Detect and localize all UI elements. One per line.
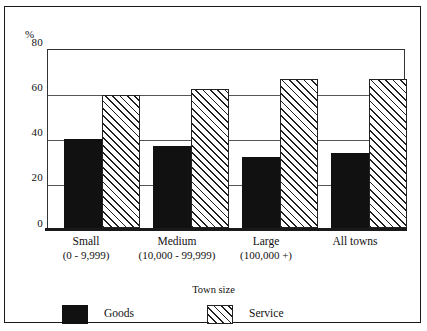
legend-item-service: Service <box>207 305 357 325</box>
chart-legend: Goods Service <box>5 305 422 327</box>
bar-goods-large <box>242 157 280 228</box>
x-label-large-line2: (100,000 +) <box>217 249 315 263</box>
bar-service-alltowns <box>369 79 407 228</box>
y-tick-20: 20 <box>9 172 43 183</box>
bar-goods-alltowns <box>331 153 369 228</box>
x-axis-baseline <box>45 228 407 231</box>
legend-item-goods: Goods <box>62 305 212 325</box>
y-tick-80: 80 <box>9 37 43 48</box>
x-label-medium: Medium (10,000 - 99,999) <box>122 235 232 262</box>
y-axis-tick-labels: 80 60 40 20 0 <box>5 7 43 331</box>
x-label-small: Small (0 - 9,999) <box>37 235 135 262</box>
chart-frame: % 80 60 40 20 0 Small (0 - 9,999) Medium… <box>4 6 421 323</box>
legend-label-service: Service <box>249 307 283 319</box>
bar-service-small <box>102 95 140 229</box>
x-label-medium-line1: Medium <box>122 235 232 249</box>
x-label-alltowns: All towns <box>306 235 404 249</box>
x-label-small-line1: Small <box>37 235 135 249</box>
bar-service-large <box>280 79 318 228</box>
legend-swatch-service <box>207 305 233 324</box>
x-label-medium-line2: (10,000 - 99,999) <box>122 249 232 263</box>
plot-area <box>47 49 405 229</box>
bar-service-medium <box>191 89 229 228</box>
legend-label-goods: Goods <box>104 307 134 319</box>
bar-goods-small <box>64 139 102 228</box>
x-label-alltowns-line1: All towns <box>306 235 404 249</box>
legend-swatch-goods <box>62 305 88 324</box>
x-label-small-line2: (0 - 9,999) <box>37 249 135 263</box>
x-axis-title: Town size <box>5 284 422 295</box>
bar-goods-medium <box>153 146 191 228</box>
y-tick-0: 0 <box>9 218 43 229</box>
y-tick-40: 40 <box>9 127 43 138</box>
x-label-large: Large (100,000 +) <box>217 235 315 262</box>
y-tick-60: 60 <box>9 82 43 93</box>
x-label-large-line1: Large <box>217 235 315 249</box>
